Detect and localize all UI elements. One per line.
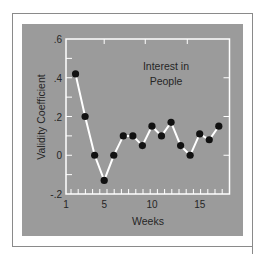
y-tick-label: .4 <box>54 73 63 84</box>
data-point-marker <box>110 152 117 159</box>
data-point-marker <box>206 136 213 143</box>
y-tick-label: -.2 <box>50 189 62 200</box>
series-line <box>76 74 219 180</box>
y-tick-label: .2 <box>54 112 63 123</box>
x-tick-label: 10 <box>146 199 158 210</box>
data-point-marker <box>187 152 194 159</box>
data-point-marker <box>101 177 108 184</box>
y-tick-label: 0 <box>56 150 62 161</box>
data-point-marker <box>196 130 203 137</box>
y-tick-labels: .6.4.20-.2 <box>50 34 62 200</box>
data-point-marker <box>82 113 89 120</box>
y-axis-label: Validity Coefficient <box>35 74 47 159</box>
data-point-marker <box>120 132 127 139</box>
x-tick-label: 1 <box>63 199 69 210</box>
data-point-marker <box>158 132 165 139</box>
data-point-marker <box>148 123 155 130</box>
data-point-marker <box>167 119 174 126</box>
data-point-marker <box>91 152 98 159</box>
data-point-marker <box>72 70 79 77</box>
x-tick-label: 15 <box>194 199 206 210</box>
x-tick-label: 5 <box>101 199 107 210</box>
x-axis-label: Weeks <box>132 215 164 227</box>
data-point-marker <box>139 142 146 149</box>
line-chart: .6.4.20-.2 151015 Interest in People Val… <box>0 0 263 254</box>
chart-title-line-2: People <box>150 75 183 87</box>
data-point-marker <box>215 123 222 130</box>
x-tick-labels: 151015 <box>63 199 205 210</box>
y-tick-label: .6 <box>54 34 63 45</box>
data-point-marker <box>129 132 136 139</box>
data-point-marker <box>177 142 184 149</box>
data-points <box>72 70 222 184</box>
chart-title-line-1: Interest in <box>143 60 189 72</box>
